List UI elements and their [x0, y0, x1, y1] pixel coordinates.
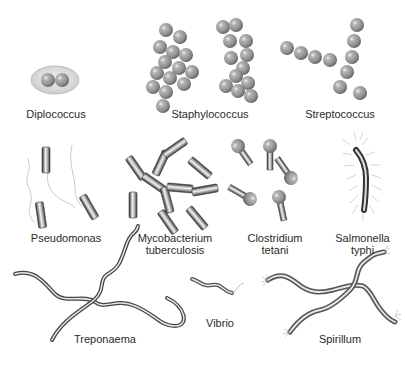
label-vibrio: Vibrio	[200, 317, 240, 330]
diplococcus-illustration	[31, 66, 79, 94]
label-diplococcus: Diplococcus	[20, 108, 92, 121]
streptococcus-illustration	[280, 18, 367, 100]
label-mycobacterium-line2: tuberculosis	[130, 244, 220, 257]
label-staphylococcus: Staphylococcus	[165, 108, 255, 121]
label-spirillum: Spirillum	[310, 333, 370, 346]
spirillum-illustration	[262, 245, 401, 337]
mycobacterium-illustration	[125, 137, 218, 235]
label-clostridium-line2: tetani	[240, 244, 310, 257]
vibrio-illustration	[192, 279, 244, 293]
label-pseudomonas: Pseudomonas	[28, 232, 104, 245]
clostridium-illustration	[226, 136, 301, 222]
salmonella-illustration	[342, 132, 381, 221]
staphylococcus-illustration	[146, 18, 258, 113]
label-salmonella-line2: typhi	[325, 244, 400, 257]
pseudomonas-illustration	[27, 145, 99, 228]
label-streptococcus: Streptococcus	[298, 108, 382, 121]
label-treponaema: Treponaema	[65, 333, 145, 346]
